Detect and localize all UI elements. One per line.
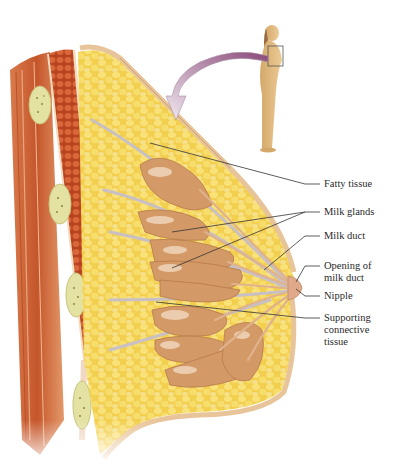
label-opening-of-milk-duct: Opening of milk duct [324,260,372,284]
nipple [288,276,302,300]
label-fatty-tissue: Fatty tissue [324,178,372,190]
label-supporting-connective-tissue: Supporting connective tissue [324,312,371,348]
inset-figure [260,25,283,153]
curved-arrow [166,52,268,120]
label-milk-duct: Milk duct [324,230,365,242]
label-nipple: Nipple [324,290,353,302]
label-milk-glands: Milk glands [324,206,374,218]
